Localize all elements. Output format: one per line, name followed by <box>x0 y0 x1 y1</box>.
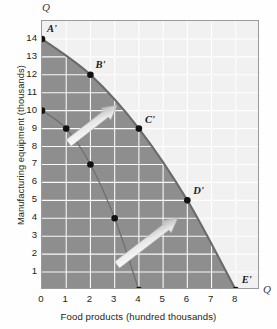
x-tick-7: 7 <box>201 293 221 304</box>
x-tick-0: 0 <box>31 293 51 304</box>
data-point-inner-3[interactable] <box>111 215 118 222</box>
point-label-A-prime: A' <box>47 23 57 34</box>
plot-area <box>41 20 259 289</box>
x-tick-5: 5 <box>152 293 172 304</box>
point-label-B-prime: B' <box>95 59 105 70</box>
x-tick-3: 3 <box>104 293 124 304</box>
data-point-D'[interactable] <box>184 197 191 204</box>
point-label-D-prime: D' <box>193 185 204 196</box>
data-point-C'[interactable] <box>136 125 143 132</box>
data-point-B'[interactable] <box>87 72 94 79</box>
point-label-C-prime: C' <box>145 114 155 125</box>
x-tick-8: 8 <box>225 293 245 304</box>
x-tick-2: 2 <box>79 293 99 304</box>
x-tick-4: 4 <box>128 293 148 304</box>
data-point-inner-1[interactable] <box>63 125 70 132</box>
data-point-inner-2[interactable] <box>87 161 94 168</box>
x-tick-1: 1 <box>55 293 75 304</box>
point-label-E-prime: E' <box>242 274 252 285</box>
x-tick-6: 6 <box>176 293 196 304</box>
chart-figure: Manufacturing equipment (thousands) Food… <box>0 0 277 329</box>
plot-svg <box>42 21 259 289</box>
